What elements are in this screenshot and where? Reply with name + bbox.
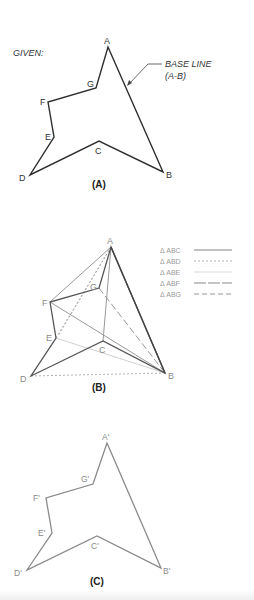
vertex-label-c: C bbox=[95, 146, 102, 156]
given-label: GIVEN: bbox=[13, 48, 44, 58]
vertex-label-g: G bbox=[87, 79, 94, 89]
b-vertex-label-c: C bbox=[99, 345, 106, 355]
vertex-label-d: D bbox=[19, 173, 26, 183]
legend-item-abe: Δ ABE bbox=[160, 269, 232, 276]
panel-b-caption: (B) bbox=[92, 382, 106, 393]
triangulation-figure: GIVEN: BASE LINE (A-B) A B C D E F G (A) bbox=[0, 0, 254, 600]
triangle-abg bbox=[99, 288, 165, 373]
c-vertex-label-e: E' bbox=[38, 528, 46, 538]
legend-item-abc: Δ ABC bbox=[160, 247, 232, 254]
c-vertex-label-f: F' bbox=[33, 493, 40, 503]
base-line-sub-label: (A-B) bbox=[165, 71, 186, 81]
legend-item-abf: Δ ABF bbox=[160, 280, 232, 287]
c-vertex-label-a: A' bbox=[102, 432, 110, 442]
b-vertex-label-g: G bbox=[90, 282, 97, 292]
b-vertex-label-d: D bbox=[20, 374, 27, 384]
c-vertex-label-c: C' bbox=[91, 541, 99, 551]
legend-label-abe: Δ ABE bbox=[160, 269, 181, 276]
b-vertex-label-b: B bbox=[168, 371, 174, 381]
page-edge-shadow bbox=[0, 590, 254, 600]
panel-b-polygon bbox=[31, 247, 165, 376]
vertex-label-f: F bbox=[40, 97, 46, 107]
vertex-label-e: E bbox=[45, 132, 51, 142]
panel-c-caption: (C) bbox=[90, 576, 104, 587]
legend-label-abd: Δ ABD bbox=[160, 258, 181, 265]
panel-a-caption: (A) bbox=[92, 179, 106, 190]
c-vertex-label-b: B' bbox=[163, 566, 171, 576]
base-line-leader bbox=[127, 64, 162, 86]
legend: Δ ABC Δ ABD Δ ABE Δ ABF Δ ABG bbox=[160, 247, 232, 298]
b-vertex-label-a: A bbox=[107, 236, 113, 246]
b-vertex-label-e: E bbox=[46, 333, 52, 343]
c-vertex-label-d: D' bbox=[14, 568, 22, 578]
panel-a-given-shape: GIVEN: BASE LINE (A-B) A B C D E F G (A) bbox=[13, 36, 213, 190]
legend-item-abd: Δ ABD bbox=[160, 258, 232, 265]
legend-label-abc: Δ ABC bbox=[160, 247, 181, 254]
panel-c-transferred-shape: A' B' C' D' E' F' G' (C) bbox=[14, 432, 171, 587]
c-vertex-label-g: G' bbox=[81, 474, 90, 484]
base-line-label: BASE LINE bbox=[165, 59, 213, 69]
vertex-label-b: B bbox=[166, 170, 172, 180]
b-vertex-label-f: F bbox=[42, 298, 48, 308]
legend-label-abg: Δ ABG bbox=[160, 291, 181, 298]
legend-item-abg: Δ ABG bbox=[160, 291, 232, 298]
base-line-ab bbox=[111, 247, 165, 373]
triangle-abf bbox=[50, 247, 165, 373]
legend-label-abf: Δ ABF bbox=[160, 280, 180, 287]
panel-b-triangulation: A B C D E F G Δ ABC Δ ABD Δ ABE Δ ABF bbox=[20, 236, 232, 393]
vertex-label-a: A bbox=[104, 36, 110, 46]
